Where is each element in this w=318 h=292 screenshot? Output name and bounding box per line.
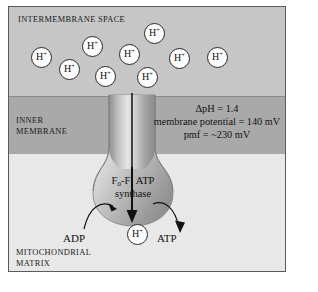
label-intermembrane-space: INTERMEMBRANE SPACE (18, 14, 125, 25)
proton-ims-5: H+ (119, 44, 140, 65)
proton-ims-8: H+ (169, 48, 190, 69)
label-adp: ADP (63, 232, 85, 244)
atp-synthase-label: F0-F1 ATP synthase (87, 175, 179, 200)
proton-matrix-1: H+ (127, 224, 148, 245)
annotation-membrane-potential: membrane potential = 140 mV (149, 115, 285, 128)
proton-ims-9: H+ (207, 47, 228, 68)
proton-label: H+ (149, 27, 160, 38)
proton-label: H+ (100, 70, 111, 81)
annotation-block: ΔpH = 1.4 membrane potential = 140 mV pm… (149, 102, 285, 142)
proton-label: H+ (142, 71, 153, 82)
proton-label: H+ (64, 63, 75, 74)
proton-ims-4: H+ (95, 66, 116, 87)
proton-label: H+ (174, 52, 185, 63)
synthase-name-line2: synthase (115, 188, 151, 199)
annotation-pmf: pmf = ~230 mV (149, 128, 285, 141)
proton-ims-3: H+ (82, 36, 103, 57)
synthase-name-line1: F0-F1 ATP (112, 175, 155, 186)
label-inner-membrane: INNER MEMBRANE (16, 115, 67, 137)
proton-ims-1: H+ (31, 47, 52, 68)
proton-label: H+ (132, 228, 143, 239)
diagram-figure: F0-F1 ATP synthase INTERMEMBRANE SPACE I… (8, 6, 286, 272)
proton-label: H+ (87, 40, 98, 51)
label-mitochondrial-matrix: MITOCHONDRIAL MATRIX (16, 247, 91, 269)
proton-ims-6: H+ (137, 67, 158, 88)
proton-label: H+ (36, 51, 47, 62)
proton-ims-7: H+ (144, 23, 165, 44)
proton-ims-2: H+ (59, 59, 80, 80)
proton-label: H+ (124, 48, 135, 59)
proton-label: H+ (212, 51, 223, 62)
annotation-delta-ph: ΔpH = 1.4 (149, 102, 285, 115)
label-atp: ATP (157, 232, 177, 244)
